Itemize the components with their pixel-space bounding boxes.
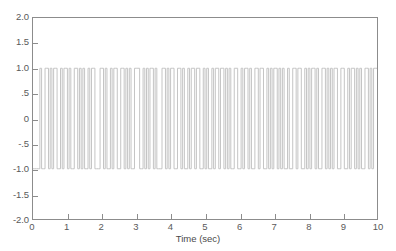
x-tick-mark: [171, 214, 172, 219]
y-tick-mark: [33, 94, 38, 95]
signal-path: [33, 68, 377, 169]
y-tick-mark: [33, 196, 38, 197]
y-tick-label: -1.0: [3, 165, 29, 175]
x-tick-mark: [241, 214, 242, 219]
x-tick-mark: [68, 214, 69, 219]
figure-canvas: 2.01.51.0.50-.5-1.0-1.5-2.0 012345678910…: [0, 0, 396, 251]
x-tick-label: 10: [366, 222, 390, 232]
x-tick-label: 3: [124, 222, 148, 232]
y-tick-label: 0: [3, 114, 29, 124]
x-tick-mark: [275, 214, 276, 219]
x-tick-label: 2: [89, 222, 113, 232]
x-tick-mark: [206, 214, 207, 219]
x-tick-label: 6: [228, 222, 252, 232]
x-axis-label: Time (sec): [0, 234, 396, 244]
y-tick-mark: [33, 69, 38, 70]
x-tick-mark: [310, 214, 311, 219]
y-tick-label: .5: [3, 88, 29, 98]
x-tick-label: 4: [158, 222, 182, 232]
x-tick-mark: [344, 214, 345, 219]
x-tick-label: 7: [262, 222, 286, 232]
y-tick-label: 1.0: [3, 63, 29, 73]
y-tick-label: 1.5: [3, 38, 29, 48]
y-tick-mark: [33, 145, 38, 146]
x-tick-mark: [137, 214, 138, 219]
y-tick-label: -.5: [3, 139, 29, 149]
y-tick-mark: [33, 43, 38, 44]
y-tick-label: 2.0: [3, 12, 29, 22]
y-tick-mark: [33, 170, 38, 171]
signal-waveform: [33, 18, 377, 219]
x-tick-label: 5: [193, 222, 217, 232]
plot-area: [32, 17, 378, 220]
y-axis-tick-labels: 2.01.51.0.50-.5-1.0-1.5-2.0: [0, 0, 29, 251]
y-tick-label: -1.5: [3, 190, 29, 200]
x-tick-label: 0: [20, 222, 44, 232]
x-tick-label: 9: [331, 222, 355, 232]
x-tick-label: 8: [297, 222, 321, 232]
y-tick-mark: [33, 120, 38, 121]
x-tick-mark: [102, 214, 103, 219]
x-tick-label: 1: [55, 222, 79, 232]
